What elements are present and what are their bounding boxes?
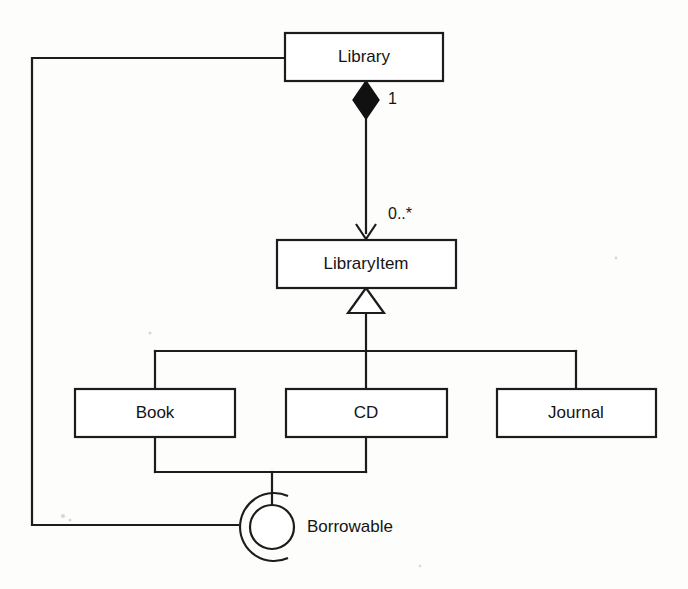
- uml-class-diagram: Library LibraryItem Book CD Journal 1 0.…: [0, 0, 688, 589]
- interface-ball-icon: [250, 505, 294, 549]
- diagram-canvas: Library LibraryItem Book CD Journal 1 0.…: [0, 0, 688, 589]
- multiplicity-label-many: 0..*: [388, 205, 412, 222]
- class-box-journal[interactable]: Journal: [497, 389, 656, 437]
- class-box-libraryitem[interactable]: LibraryItem: [277, 240, 456, 288]
- connector-library-composition-libraryitem: [353, 81, 379, 239]
- class-name-journal: Journal: [548, 403, 604, 422]
- class-name-cd: CD: [354, 403, 379, 422]
- connector-library-requires-borrowable: [32, 58, 285, 525]
- composition-diamond-icon: [353, 81, 379, 119]
- class-name-book: Book: [136, 403, 175, 422]
- generalization-triangle-icon: [348, 288, 384, 313]
- class-box-book[interactable]: Book: [75, 389, 235, 437]
- multiplicity-label-one: 1: [388, 90, 397, 107]
- interface-borrowable[interactable]: [240, 493, 294, 561]
- interface-label-borrowable: Borrowable: [307, 517, 393, 536]
- class-name-library: Library: [338, 47, 390, 66]
- class-box-cd[interactable]: CD: [286, 389, 447, 437]
- class-box-library[interactable]: Library: [285, 33, 443, 81]
- class-name-libraryitem: LibraryItem: [323, 254, 408, 273]
- connector-generalization-tree: [155, 288, 576, 389]
